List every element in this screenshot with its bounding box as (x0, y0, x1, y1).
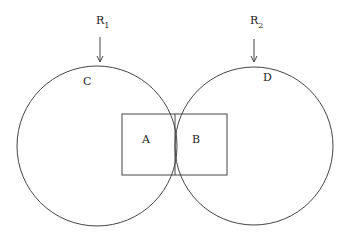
label-c: C (83, 75, 91, 88)
label-a: A (141, 133, 151, 146)
label-r2: R2 (250, 14, 263, 30)
circle-d (175, 67, 333, 225)
circle-c (17, 66, 177, 226)
label-r1: R1 (96, 14, 109, 30)
arrow-r1-icon (97, 37, 103, 62)
label-b: B (192, 133, 200, 146)
diagram-canvas: R1 R2 C D A B (0, 0, 349, 239)
arrow-r2-icon (251, 39, 257, 62)
label-d: D (263, 71, 272, 84)
